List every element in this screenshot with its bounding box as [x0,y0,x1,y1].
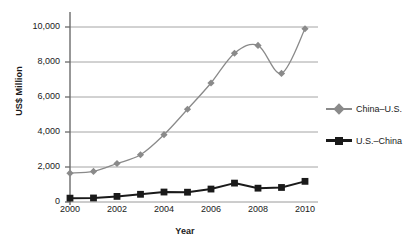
legend-swatch-square [326,135,352,147]
data-point-diamond [301,25,308,32]
series-line-1 [70,29,305,173]
data-point-square [302,178,309,185]
data-point-square [231,180,238,187]
square-marker-icon [335,137,343,145]
data-point-square [278,184,285,191]
chart-legend: China–U.S. U.S.–China [326,102,402,166]
data-point-square [114,193,121,200]
data-point-diamond [137,151,144,158]
legend-label: U.S.–China [356,136,402,147]
data-point-diamond [66,170,73,177]
diamond-marker-icon [333,103,344,114]
data-point-square [137,191,144,198]
data-point-square [90,195,97,202]
data-point-diamond [90,168,97,175]
data-point-square [255,185,262,192]
legend-label: China–U.S. [356,104,402,115]
data-point-square [161,189,168,196]
data-point-square [67,195,74,202]
data-point-diamond [113,160,120,167]
data-point-square [184,189,191,196]
chart-figure: US$ Million Year 10,000 8,000 6,000 4,00… [0,0,413,247]
legend-item-us-china: U.S.–China [326,134,402,148]
legend-swatch-diamond [326,103,352,115]
legend-item-china-us: China–U.S. [326,102,402,116]
data-point-square [208,186,215,193]
